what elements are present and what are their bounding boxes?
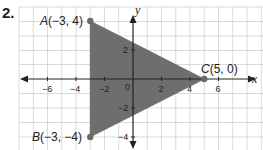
point-a-label: A(−3, 4) — [39, 14, 83, 28]
y-tick-label: 2 — [123, 45, 128, 55]
point-b-coords: (−3, −4) — [40, 130, 82, 144]
point-b-label: B(−3, −4) — [32, 130, 82, 144]
point-c-label: C(5, 0) — [201, 62, 238, 76]
point-c-coords: (5, 0) — [210, 62, 238, 76]
point-c — [201, 76, 207, 82]
x-axis-label: x — [251, 72, 258, 86]
x-axis-left-arrow-icon — [20, 76, 28, 83]
x-tick-label: 2 — [159, 84, 164, 94]
x-tick-label: 4 — [187, 84, 192, 94]
coordinate-plane: x y −6 −4 −2 2 4 6 0 2 −2 −4 A(−3, 4) B(… — [0, 0, 263, 150]
point-a-coords: (−3, 4) — [48, 14, 83, 28]
x-tick-label: −6 — [42, 84, 52, 94]
x-tick-label: −4 — [70, 84, 80, 94]
point-a-name: A — [39, 14, 48, 28]
y-axis-label: y — [134, 3, 141, 17]
x-tick-label: 6 — [216, 84, 221, 94]
origin-label: 0 — [125, 82, 130, 92]
point-b — [87, 134, 93, 140]
point-b-name: B — [32, 130, 40, 144]
point-a — [87, 18, 93, 24]
y-tick-label: −2 — [118, 103, 128, 113]
x-tick-label: −2 — [99, 84, 109, 94]
y-axis-down-arrow-icon — [130, 141, 137, 149]
point-c-name: C — [201, 62, 210, 76]
y-tick-label: −4 — [118, 132, 128, 142]
